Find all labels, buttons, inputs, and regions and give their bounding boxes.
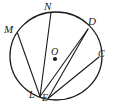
point-label-L: L (29, 90, 35, 100)
point-label-O: O (51, 47, 58, 57)
point-label-D: D (88, 16, 96, 27)
circle-geometry-figure: O M N D C L E (0, 0, 113, 111)
chord-group (18, 13, 100, 99)
point-label-E: E (42, 93, 48, 103)
point-label-M: M (4, 24, 13, 35)
chord-CE (48, 57, 99, 99)
chord-ML (18, 33, 41, 97)
point-label-N: N (44, 1, 51, 12)
chord-DE (48, 29, 88, 99)
point-label-C: C (98, 49, 105, 59)
center-point-dot (53, 57, 57, 61)
